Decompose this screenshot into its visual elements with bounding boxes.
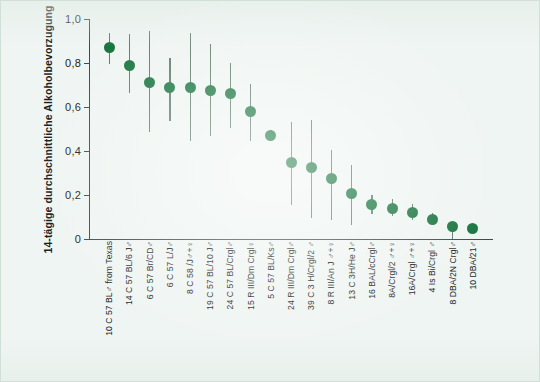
y-tick-label: 0,8 [65, 57, 81, 69]
x-tick-label: 19 C 57 BL/10 J♂ [206, 241, 215, 381]
error-bar [331, 150, 332, 220]
x-tick-label: 8 DBA/2N Crgl♂ [448, 241, 457, 381]
x-tick-label: 15 R III/Dm Crgl♀ [246, 241, 255, 381]
data-marker [427, 214, 438, 225]
data-marker [144, 77, 155, 88]
x-tick-label: 14 C 57 BL/6 J♂ [125, 241, 134, 381]
data-marker [326, 173, 337, 184]
data-marker [265, 130, 276, 141]
data-marker [286, 157, 297, 168]
data-marker [124, 60, 135, 71]
data-marker [346, 188, 357, 199]
y-tick-label: 0,4 [65, 145, 81, 157]
plot-area: 00,20,40,60,81,0 [89, 19, 493, 239]
x-tick-label: 10 DBA/21♂ [468, 241, 477, 381]
x-tick-label: 6 C 57 Br/CD♂ [145, 241, 154, 381]
data-marker [104, 42, 115, 53]
data-marker [467, 223, 478, 234]
data-marker [185, 82, 196, 93]
data-marker [447, 221, 458, 232]
y-axis-title: 14-tägige durchschnittliche Alkoholbevor… [31, 19, 65, 239]
data-marker [387, 203, 398, 214]
x-tick-label: 8 C 58 /J♂+♀ [186, 241, 195, 381]
x-axis-line [89, 239, 493, 240]
figure-panel: 14-tägige durchschnittliche Alkoholbevor… [0, 0, 540, 382]
data-marker [407, 207, 418, 218]
y-tick [84, 239, 89, 240]
x-tick-label: 8 R III/An J ♂+♀ [327, 241, 336, 381]
y-axis-title-text: 14-tägige durchschnittliche Alkoholbevor… [42, 5, 55, 253]
data-marker [306, 162, 317, 173]
data-marker [366, 199, 377, 210]
data-marker [225, 88, 236, 99]
x-tick-label: 16A/Crgl ♂+♀ [408, 241, 417, 381]
x-tick-label: 39 C 3 H/Crgl/2 ♂ [307, 241, 316, 381]
data-series [89, 19, 493, 239]
y-tick-label: 0,6 [65, 101, 81, 113]
x-tick-label: 16 BAL/cCrgl♂ [367, 241, 376, 381]
data-marker [245, 106, 256, 117]
x-tick-label: 8A/Crgl/2 ♂+♀ [388, 241, 397, 381]
x-tick-label: 4 Is Bi/Crgl ♂ [428, 241, 437, 381]
data-marker [205, 85, 216, 96]
x-tick-label: 10 C 57 BL♂ from Texas [105, 241, 114, 381]
x-tick-label: 24 C 57 BL/Crgl♂ [226, 241, 235, 381]
x-tick-label: 13 C 3H/He J♂ [347, 241, 356, 381]
y-tick-label: 1,0 [65, 13, 81, 25]
x-tick-label: 6 C 57 L/J♂ [165, 241, 174, 381]
data-marker [164, 82, 175, 93]
y-tick-label: 0,2 [65, 189, 81, 201]
x-axis-labels: 10 C 57 BL♂ from Texas14 C 57 BL/6 J♂6 C… [89, 241, 493, 381]
x-tick-label: 5 C 57 BL/Ks♂ [266, 241, 275, 381]
x-tick-label: 24 R III/Dm Crgl♂ [287, 241, 296, 381]
y-tick-label: 0 [75, 233, 81, 245]
